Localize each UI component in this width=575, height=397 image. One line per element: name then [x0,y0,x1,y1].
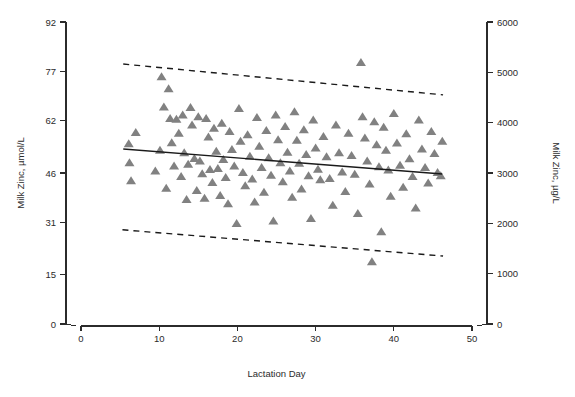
data-point-marker [322,152,332,160]
data-point-marker [157,72,167,80]
data-point-marker [124,158,134,166]
data-point-marker [360,134,370,142]
data-point-marker [299,125,309,133]
data-point-marker [437,137,447,145]
x-tick-label: 50 [467,333,478,344]
data-point-marker [334,148,344,156]
data-point-marker [209,124,219,132]
data-point-marker [203,133,213,141]
data-point-marker [313,165,323,173]
data-point-marker [131,128,141,136]
x-axis-title: Lactation Day [247,368,305,379]
y-axis-left-title: Milk Zinc, µmol/L [15,137,26,208]
data-point-marker [369,117,379,125]
regression-fit-line [123,149,442,174]
data-point-marker [221,173,231,181]
data-point-marker [213,164,223,172]
data-point-marker [340,187,350,195]
data-point-marker [169,161,179,169]
data-point-marker [392,138,402,146]
axis-labels-group: 0102030405001531466277920100020003000400… [15,17,562,380]
data-point-marker [217,119,227,127]
data-point-marker [192,186,202,194]
data-point-marker [167,138,177,146]
data-point-marker [356,58,366,66]
axes-group [60,22,493,331]
data-point-marker [292,136,302,144]
data-point-marker [381,146,391,154]
data-point-marker [417,144,427,152]
data-point-marker [261,126,271,134]
data-point-marker [182,195,192,203]
data-point-marker [372,140,382,148]
data-point-marker [174,129,184,137]
x-tick-label: 0 [78,333,83,344]
data-point-marker [193,112,203,120]
data-point-marker [257,163,267,171]
x-tick-label: 30 [310,333,321,344]
scatter-plot-figure: 0102030405001531466277920100020003000400… [0,0,575,397]
data-point-marker [306,214,316,222]
data-point-marker [227,145,237,153]
data-point-marker [395,161,405,169]
data-point-marker [273,135,283,143]
data-point-marker [353,209,363,217]
y-right-tick-label: 6000 [497,17,518,28]
data-point-marker [197,169,207,177]
data-point-marker [150,166,160,174]
data-point-marker [365,180,375,188]
y-right-tick-label: 0 [497,319,502,330]
data-point-marker [124,139,134,147]
data-point-marker [201,114,211,122]
data-point-marker [247,175,257,183]
data-point-marker [376,227,386,235]
data-point-marker [401,129,411,137]
data-point-marker [161,184,171,192]
data-point-marker [304,171,314,179]
data-point-marker [429,149,439,157]
data-point-marker [328,201,338,209]
data-point-marker [426,127,436,135]
data-point-marker [325,174,335,182]
data-point-marker [215,191,225,199]
data-point-marker [379,123,389,131]
y-axis-right-spine [477,22,487,326]
fit-and-reference-lines-group [122,64,443,256]
data-point-marker [367,257,377,265]
data-point-marker [176,172,186,180]
data-point-marker [350,170,360,178]
data-point-marker [398,183,408,191]
y-left-tick-label: 77 [45,66,56,77]
data-point-marker [250,198,260,206]
data-point-marker [268,217,278,225]
y-axis-right-title: Milk Zinc, µg/L [551,142,562,203]
y-axis-left-spine [66,22,76,326]
data-point-marker [343,129,353,137]
y-right-tick-label: 5000 [497,67,518,78]
reference-limit-line [122,230,443,256]
data-point-marker [271,111,281,119]
y-left-tick-label: 15 [45,269,56,280]
y-left-tick-label: 62 [45,115,56,126]
data-point-marker [285,166,295,174]
x-tick-label: 20 [232,333,243,344]
data-point-marker [266,171,276,179]
data-point-marker [126,176,136,184]
data-point-marker [179,148,189,156]
data-point-marker [315,175,325,183]
data-point-marker [164,84,174,92]
y-right-tick-label: 1000 [497,268,518,279]
data-point-marker [178,111,188,119]
data-point-marker [243,130,253,138]
data-point-marker [200,194,210,202]
data-point-marker [386,192,396,200]
x-tick-label: 10 [154,333,165,344]
data-point-marker [187,120,197,128]
data-point-marker [297,184,307,192]
plot-canvas: 0102030405001531466277920100020003000400… [0,0,575,397]
data-point-marker [229,161,239,169]
data-point-marker [287,193,297,201]
data-point-marker [278,177,288,185]
data-point-marker [414,116,424,124]
y-left-tick-label: 0 [51,319,56,330]
